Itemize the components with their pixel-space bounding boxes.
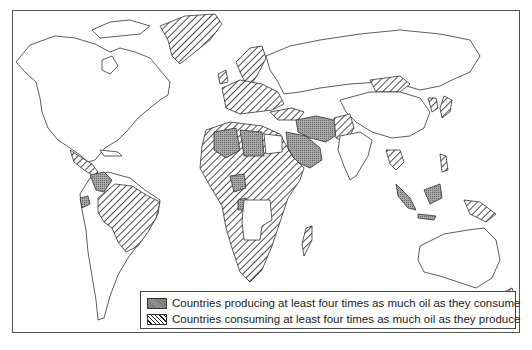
western-europe [222, 80, 284, 114]
india [338, 132, 372, 180]
turkey [270, 108, 304, 120]
stipple-swatch-icon [147, 298, 167, 309]
legend-label-producer: Countries producing at least four times … [172, 297, 520, 309]
china [340, 92, 430, 138]
libya [240, 130, 264, 156]
greenland [160, 14, 222, 64]
madagascar [302, 226, 312, 256]
java [418, 214, 436, 220]
new-guinea [464, 200, 496, 222]
philippines [440, 154, 448, 172]
korea [428, 98, 438, 112]
japan [440, 96, 452, 118]
legend-label-consumer: Countries consuming at least four times … [172, 313, 520, 325]
caribbean [100, 150, 122, 156]
indochina [386, 150, 404, 170]
map-legend: Countries producing at least four times … [140, 291, 516, 329]
arctic-islands [92, 20, 150, 38]
egypt [264, 134, 282, 154]
australia [418, 228, 500, 288]
hatch-swatch-icon [147, 314, 167, 325]
legend-item-producer: Countries producing at least four times … [147, 296, 520, 310]
uk [218, 70, 228, 84]
borneo [424, 184, 442, 204]
legend-item-consumer: Countries consuming at least four times … [147, 312, 520, 326]
sumatra [396, 184, 416, 210]
north-america [16, 36, 170, 162]
